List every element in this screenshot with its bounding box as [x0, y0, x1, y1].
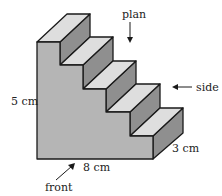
staircase-diagram: plan side 5 cm 8 cm 3 cm front [0, 0, 222, 196]
width-label: 8 cm [83, 161, 111, 174]
front-label: front [45, 181, 73, 194]
plan-arrow [127, 22, 133, 43]
side-label: side [196, 81, 219, 94]
plan-label: plan [122, 8, 146, 21]
front-arrow [56, 163, 75, 180]
depth-label: 3 cm [172, 142, 200, 155]
side-arrow [172, 84, 192, 90]
height-label: 5 cm [11, 95, 39, 108]
